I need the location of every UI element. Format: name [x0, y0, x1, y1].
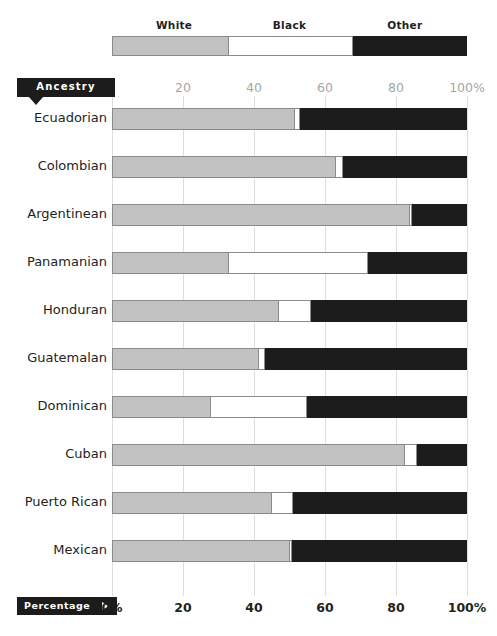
bar-segment-other[interactable]: [311, 300, 467, 322]
bar-row: Argentinean: [0, 200, 497, 248]
bar-segment-white[interactable]: [112, 108, 295, 130]
top-axis-tick: 80: [388, 80, 404, 95]
bar-segment-black[interactable]: [229, 252, 367, 274]
legend-label-white: White: [156, 19, 192, 31]
bar-row-label: Cuban: [0, 446, 107, 461]
stacked-bar[interactable]: [112, 444, 467, 466]
bar-segment-black[interactable]: [211, 396, 307, 418]
bar-row: Mexican: [0, 536, 497, 584]
legend-labels: WhiteBlackOther: [112, 19, 467, 33]
bar-row: Cuban: [0, 440, 497, 488]
stacked-bar-chart: WhiteBlackOther 20406080100% Ancestry Ec…: [0, 0, 497, 636]
legend-swatch-bar: [112, 36, 467, 56]
bar-row-label: Mexican: [0, 542, 107, 557]
bar-segment-white[interactable]: [112, 156, 336, 178]
bar-row: Guatemalan: [0, 344, 497, 392]
bottom-axis-tick: 60: [316, 600, 333, 615]
bar-segment-black[interactable]: [272, 492, 293, 514]
legend-swatch-white: [112, 36, 229, 56]
bar-segment-white[interactable]: [112, 348, 259, 370]
bar-segment-white[interactable]: [112, 492, 272, 514]
legend-swatch-other: [353, 36, 467, 56]
bottom-axis-tick: 80: [387, 600, 404, 615]
bar-segment-white[interactable]: [112, 300, 279, 322]
ancestry-axis-tag: Ancestry: [17, 78, 115, 97]
stacked-bar[interactable]: [112, 396, 467, 418]
stacked-bar[interactable]: [112, 300, 467, 322]
bottom-axis-ticks: 0%20406080100%: [112, 600, 467, 616]
bar-row: Honduran: [0, 296, 497, 344]
bar-row-label: Panamanian: [0, 254, 107, 269]
bar-segment-white[interactable]: [112, 204, 410, 226]
bar-row: Colombian: [0, 152, 497, 200]
stacked-bar[interactable]: [112, 204, 467, 226]
top-axis-ticks: 20406080100%: [112, 80, 467, 96]
stacked-bar[interactable]: [112, 492, 467, 514]
legend-label-black: Black: [273, 19, 306, 31]
bar-segment-other[interactable]: [343, 156, 467, 178]
bar-segment-other[interactable]: [307, 396, 467, 418]
bar-segment-other[interactable]: [292, 540, 467, 562]
bottom-axis-tick: 100%: [448, 600, 487, 615]
bar-row-label: Dominican: [0, 398, 107, 413]
bar-segment-other[interactable]: [293, 492, 467, 514]
bar-segment-white[interactable]: [112, 396, 211, 418]
ancestry-axis-tag-label: Ancestry: [17, 81, 115, 92]
stacked-bar[interactable]: [112, 348, 467, 370]
bar-row-label: Guatemalan: [0, 350, 107, 365]
bar-row-label: Puerto Rican: [0, 494, 107, 509]
bar-segment-other[interactable]: [412, 204, 467, 226]
percentage-axis-tag-label: Percentage: [24, 600, 90, 611]
bar-row-label: Argentinean: [0, 206, 107, 221]
bar-segment-white[interactable]: [112, 252, 229, 274]
bar-segment-black[interactable]: [279, 300, 311, 322]
bar-segment-other[interactable]: [265, 348, 467, 370]
bar-segment-black[interactable]: [405, 444, 417, 466]
bar-row: Puerto Rican: [0, 488, 497, 536]
bar-segment-white[interactable]: [112, 444, 405, 466]
bar-segment-other[interactable]: [300, 108, 467, 130]
top-axis-tick: 100%: [449, 80, 485, 95]
top-axis-tick: 40: [246, 80, 262, 95]
bar-row: Panamanian: [0, 248, 497, 296]
bottom-axis-tick: 40: [245, 600, 262, 615]
bottom-axis-tick: 20: [174, 600, 191, 615]
stacked-bar[interactable]: [112, 252, 467, 274]
bar-row: Ecuadorian: [0, 104, 497, 152]
bar-row-label: Ecuadorian: [0, 110, 107, 125]
bar-segment-black[interactable]: [336, 156, 343, 178]
bar-segment-other[interactable]: [417, 444, 467, 466]
bar-segment-other[interactable]: [368, 252, 467, 274]
stacked-bar[interactable]: [112, 156, 467, 178]
bar-row-label: Colombian: [0, 158, 107, 173]
bottom-axis-tick: 0%: [101, 600, 122, 615]
bar-rows: EcuadorianColombianArgentineanPanamanian…: [0, 104, 497, 584]
top-axis-tick: 20: [175, 80, 191, 95]
stacked-bar[interactable]: [112, 540, 467, 562]
bar-row: Dominican: [0, 392, 497, 440]
top-axis-tick: 60: [317, 80, 333, 95]
bar-row-label: Honduran: [0, 302, 107, 317]
legend-swatch-black: [229, 36, 353, 56]
bar-segment-white[interactable]: [112, 540, 290, 562]
stacked-bar[interactable]: [112, 108, 467, 130]
legend-label-other: Other: [387, 19, 422, 31]
